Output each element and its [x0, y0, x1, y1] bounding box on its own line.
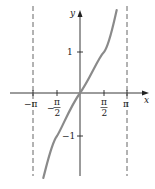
- x-tick-label-neg-half-pi-den: 2: [55, 108, 61, 118]
- y-tick-label-one: 1: [67, 47, 73, 57]
- x-tick-label-neg-half-pi-num: π: [54, 97, 60, 107]
- x-tick-label-half-pi-num: π: [101, 97, 107, 107]
- y-tick-label-neg-one: −1: [62, 131, 75, 141]
- y-axis-label: y: [69, 8, 76, 18]
- tangent-half-angle-plot: y x −π π − π 2 π 2 1 −1: [0, 0, 155, 189]
- x-tick-label-half-pi-den: 2: [102, 108, 108, 118]
- x-axis-label: x: [144, 95, 149, 105]
- x-tick-label-neg-pi: −π: [24, 99, 38, 109]
- y-axis-arrow-icon: [78, 10, 83, 17]
- x-tick-label-pi: π: [123, 99, 129, 109]
